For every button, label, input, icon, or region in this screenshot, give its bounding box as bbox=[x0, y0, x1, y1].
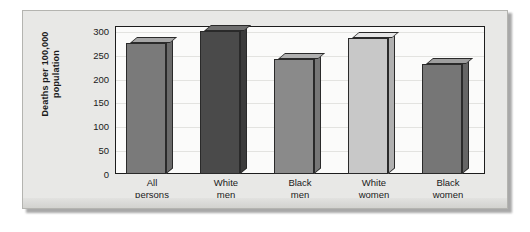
y-axis-title: Deaths per 100,000 population bbox=[40, 12, 62, 136]
bar-side-face bbox=[462, 58, 469, 174]
x-axis-category-labels: AllpersonsWhitemenBlackmenWhitewomenBlac… bbox=[115, 177, 485, 207]
y-axis-title-line-2: population bbox=[51, 50, 61, 98]
x-category-label-line: White bbox=[337, 177, 411, 189]
x-category-label-line: Black bbox=[263, 177, 337, 189]
y-axis-title-line-1: Deaths per 100,000 bbox=[40, 31, 50, 116]
bar-side-face bbox=[388, 32, 395, 174]
y-tick-label: 100 bbox=[93, 121, 109, 132]
bar-front-face bbox=[422, 64, 462, 174]
y-tick-label: 200 bbox=[93, 73, 109, 84]
x-category-label: Whitewomen bbox=[337, 177, 411, 200]
x-category-label: Allpersons bbox=[115, 177, 189, 200]
y-axis-tick-labels: 050100150200250300 bbox=[79, 26, 109, 174]
x-category-label-line: men bbox=[263, 189, 337, 201]
chart-card: Deaths per 100,000 population 0501001502… bbox=[22, 10, 508, 209]
bar-group[interactable] bbox=[422, 64, 462, 174]
x-category-label-line: All bbox=[115, 177, 189, 189]
bar-group[interactable] bbox=[126, 43, 166, 174]
bar-front-face bbox=[274, 59, 314, 174]
bar-side-face bbox=[240, 25, 247, 174]
x-category-label: Blackwomen bbox=[411, 177, 485, 200]
bar-front-face bbox=[348, 38, 388, 174]
bar-front-face bbox=[126, 43, 166, 174]
bar-group[interactable] bbox=[200, 31, 240, 174]
x-category-label: Whitemen bbox=[189, 177, 263, 200]
y-tick-label: 0 bbox=[104, 169, 109, 180]
bar-group[interactable] bbox=[274, 59, 314, 174]
x-category-label: Blackmen bbox=[263, 177, 337, 200]
x-category-label-line: persons bbox=[115, 189, 189, 201]
bar-group[interactable] bbox=[348, 38, 388, 174]
bar-side-face bbox=[166, 37, 173, 174]
bar-side-face bbox=[314, 54, 321, 174]
bar-front-face bbox=[200, 31, 240, 174]
x-category-label-line: women bbox=[411, 189, 485, 201]
x-category-label-line: Black bbox=[411, 177, 485, 189]
y-tick-label: 250 bbox=[93, 49, 109, 60]
x-category-label-line: White bbox=[189, 177, 263, 189]
x-category-label-line: men bbox=[189, 189, 263, 201]
bars-layer bbox=[115, 26, 485, 174]
x-category-label-line: women bbox=[337, 189, 411, 201]
y-tick-label: 150 bbox=[93, 97, 109, 108]
figure-root: Deaths per 100,000 population 0501001502… bbox=[0, 0, 530, 232]
chart-plot-wrapper: Deaths per 100,000 population 0501001502… bbox=[23, 11, 509, 210]
y-tick-label: 300 bbox=[93, 25, 109, 36]
y-tick-label: 50 bbox=[98, 145, 109, 156]
